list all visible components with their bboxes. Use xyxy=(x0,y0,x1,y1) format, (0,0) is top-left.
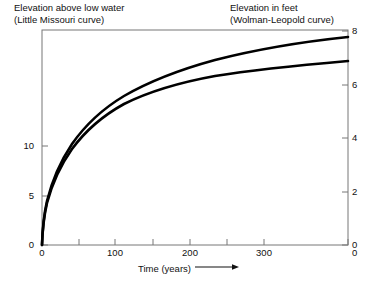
y-axis-label-right-2: 2 xyxy=(352,187,357,197)
chart-canvas xyxy=(0,0,366,282)
axis-tick-marks xyxy=(42,31,348,245)
y-axis-label-left-5: 5 xyxy=(8,191,34,201)
y-axis-label-right-6: 6 xyxy=(352,80,357,90)
y-axis-label-right-4: 4 xyxy=(352,133,357,143)
plot-frame xyxy=(42,30,348,245)
curve-lower xyxy=(42,61,348,245)
x-axis-label-300: 300 xyxy=(252,248,276,258)
data-curves xyxy=(42,37,348,245)
x-axis-arrow xyxy=(195,264,239,270)
y-axis-label-right-8: 8 xyxy=(352,26,357,36)
x-axis-label-end: 0 xyxy=(352,248,357,258)
curve-upper xyxy=(42,37,348,245)
x-axis-label-0: 0 xyxy=(30,248,54,258)
y-axis-label-left-10: 10 xyxy=(8,141,34,151)
x-axis-label-100: 100 xyxy=(103,248,127,258)
x-axis-title: Time (years) xyxy=(138,263,191,274)
x-axis-label-200: 200 xyxy=(178,248,202,258)
